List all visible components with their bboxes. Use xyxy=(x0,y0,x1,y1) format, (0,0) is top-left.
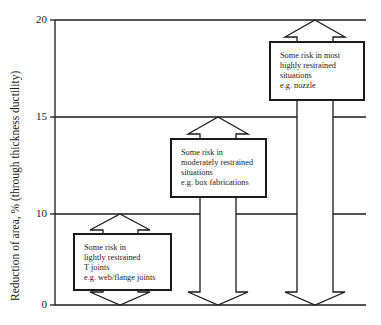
box-line: Some risk in xyxy=(181,148,259,158)
box-line: situations xyxy=(280,71,357,81)
box-line: Some risk in most xyxy=(280,51,357,61)
risk-box-light: Some risk in lightly restrained T joints… xyxy=(73,233,172,291)
box-line: Some risk in xyxy=(84,243,164,253)
box-line: e.g. box fabrications xyxy=(181,178,259,188)
box-line: e.g. web/flange joints xyxy=(84,273,164,283)
box-line: highly restrained xyxy=(280,61,357,71)
y-tick-20: 20 xyxy=(27,13,47,25)
box-line: moderately restrained xyxy=(181,158,259,168)
risk-box-moderate: Some risk in moderately restrained situa… xyxy=(170,138,267,198)
y-axis-label: Reduction of area, % (through thickness … xyxy=(9,71,21,301)
y-tick-0: 0 xyxy=(27,298,47,310)
box-line: situations xyxy=(181,168,259,178)
box-line: e.g. nozzle xyxy=(280,81,357,91)
box-line: T joints xyxy=(84,263,164,273)
y-tick-15: 15 xyxy=(27,110,47,122)
risk-box-high: Some risk in most highly restrained situ… xyxy=(269,41,365,101)
y-tick-10: 10 xyxy=(27,207,47,219)
box-line: lightly restrained xyxy=(84,253,164,263)
